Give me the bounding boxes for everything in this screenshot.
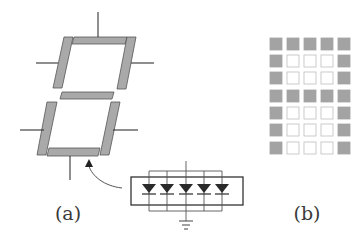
matrix-dot-off: [287, 107, 299, 119]
matrix-dot-off: [304, 107, 316, 119]
matrix-dot-on: [338, 38, 350, 50]
matrix-dot-off: [287, 124, 299, 136]
matrix-dot-on: [338, 124, 350, 136]
matrix-dot-on: [321, 90, 333, 102]
matrix-dot-on: [287, 90, 299, 102]
seven-segment-display: [37, 37, 136, 156]
diode-icon: [215, 184, 229, 193]
matrix-dot-off: [287, 142, 299, 154]
matrix-dot-on: [287, 38, 299, 50]
matrix-dot-on: [338, 72, 350, 84]
matrix-dot-on: [338, 55, 350, 67]
matrix-dot-off: [287, 55, 299, 67]
matrix-dot-on: [270, 55, 282, 67]
matrix-dot-on: [270, 90, 282, 102]
matrix-dot-off: [287, 72, 299, 84]
diodes: [142, 184, 229, 194]
matrix-dot-on: [338, 90, 350, 102]
matrix-dot-off: [321, 55, 333, 67]
matrix-dot-on: [338, 107, 350, 119]
matrix-dot-on: [304, 38, 316, 50]
diode-icon: [197, 184, 211, 193]
matrix-dot-on: [270, 142, 282, 154]
matrix-dot-off: [304, 124, 316, 136]
matrix-dot-off: [321, 124, 333, 136]
diode-icon: [160, 184, 174, 193]
segment-g: [60, 92, 114, 99]
matrix-dot-on: [270, 107, 282, 119]
matrix-dot-off: [321, 107, 333, 119]
matrix-dot-off: [321, 72, 333, 84]
panel-b-label: (b): [294, 202, 321, 224]
pointer-arrow: [85, 159, 122, 188]
matrix-dot-on: [321, 38, 333, 50]
panel-a-label: (a): [55, 202, 81, 224]
matrix-dot-off: [304, 142, 316, 154]
matrix-dot-off: [304, 72, 316, 84]
dot-matrix-display: [270, 38, 350, 154]
ground-icon: [179, 221, 193, 229]
matrix-dot-on: [270, 72, 282, 84]
matrix-dot-on: [270, 124, 282, 136]
matrix-dot-on: [304, 90, 316, 102]
diode-icon: [179, 184, 193, 193]
segment-a: [72, 37, 127, 44]
led-array-inset: [131, 161, 243, 229]
matrix-dot-on: [338, 142, 350, 154]
segment-c: [100, 102, 120, 155]
segment-e: [37, 102, 57, 155]
segment-d: [47, 148, 100, 156]
matrix-dot-on: [270, 38, 282, 50]
matrix-dot-off: [304, 55, 316, 67]
figure-canvas: (a) (b): [0, 0, 363, 242]
diode-icon: [142, 184, 156, 193]
matrix-dot-off: [321, 142, 333, 154]
